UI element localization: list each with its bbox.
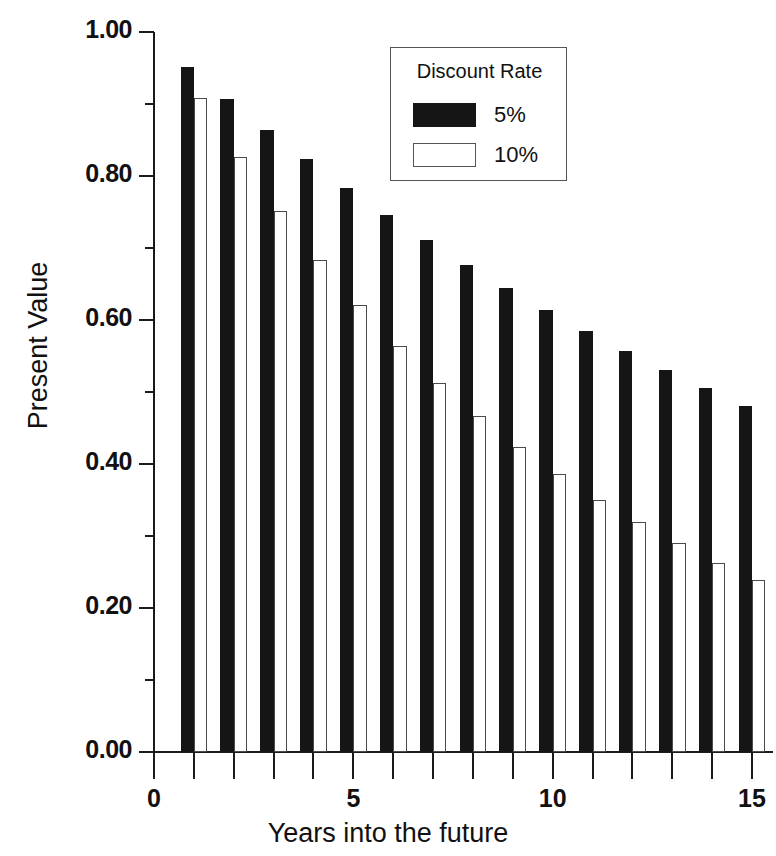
bar-5pct-year-10 (539, 310, 552, 752)
y-tick-major (139, 751, 154, 753)
x-tick-minor (392, 753, 394, 779)
y-tick-minor (145, 247, 154, 249)
y-tick-label: 0.60 (54, 303, 132, 332)
bar-10pct-year-11 (593, 500, 606, 752)
y-tick-label: 1.00 (54, 15, 132, 44)
y-tick-major (139, 31, 154, 33)
bar-10pct-year-7 (433, 383, 446, 752)
legend-item-10-percent: 10% (413, 140, 553, 170)
bar-5pct-year-11 (579, 331, 592, 752)
bar-5pct-year-3 (260, 130, 273, 752)
bar-5pct-year-9 (499, 288, 512, 752)
y-tick-minor (145, 103, 154, 105)
x-tick-label: 15 (717, 784, 776, 813)
legend-swatch-10-percent (413, 143, 476, 167)
bar-5pct-year-5 (340, 188, 353, 752)
x-tick-minor (512, 753, 514, 779)
x-tick-major (552, 753, 554, 779)
bar-5pct-year-14 (699, 388, 712, 752)
y-tick-major (139, 463, 154, 465)
bar-5pct-year-1 (181, 67, 194, 752)
x-tick-minor (472, 753, 474, 779)
y-tick-major (139, 175, 154, 177)
bar-10pct-year-15 (752, 580, 765, 752)
bar-10pct-year-6 (393, 346, 406, 752)
x-tick-label: 10 (518, 784, 588, 813)
x-tick-minor (432, 753, 434, 779)
bar-10pct-year-9 (513, 447, 526, 752)
bar-10pct-year-5 (353, 305, 366, 752)
x-tick-minor (592, 753, 594, 779)
y-tick-minor (145, 679, 154, 681)
x-tick-major (751, 753, 753, 779)
x-tick-minor (711, 753, 713, 779)
y-tick-label: 0.20 (54, 591, 132, 620)
legend: Discount Rate 5% 10% (390, 47, 567, 181)
bar-5pct-year-12 (619, 351, 632, 752)
legend-title: Discount Rate (391, 60, 568, 83)
bar-5pct-year-13 (659, 370, 672, 752)
x-tick-minor (312, 753, 314, 779)
y-tick-minor (145, 391, 154, 393)
bar-10pct-year-13 (672, 543, 685, 752)
bar-10pct-year-2 (234, 157, 247, 752)
present-value-bar-chart: Present Value 0.000.200.400.600.801.00 0… (0, 0, 776, 856)
y-tick-label: 0.00 (54, 735, 132, 764)
legend-item-5-percent: 5% (413, 100, 553, 130)
x-tick-label: 5 (318, 784, 388, 813)
bar-10pct-year-10 (553, 474, 566, 752)
y-tick-major (139, 319, 154, 321)
bar-5pct-year-4 (300, 159, 313, 752)
bar-10pct-year-4 (313, 260, 326, 752)
bar-5pct-year-15 (739, 406, 752, 752)
x-tick-minor (233, 753, 235, 779)
bar-10pct-year-8 (473, 416, 486, 752)
y-tick-label: 0.80 (54, 159, 132, 188)
bar-10pct-year-14 (712, 563, 725, 752)
x-tick-major (352, 753, 354, 779)
x-tick-label: 0 (119, 784, 189, 813)
y-axis-title: Present Value (23, 196, 54, 496)
legend-swatch-5-percent (413, 103, 476, 127)
y-tick-minor (145, 535, 154, 537)
bar-5pct-year-6 (380, 215, 393, 752)
y-tick-label: 0.40 (54, 447, 132, 476)
x-axis-title: Years into the future (0, 818, 776, 849)
x-tick-major (153, 753, 155, 779)
x-tick-minor (631, 753, 633, 779)
bar-5pct-year-8 (460, 265, 473, 752)
x-tick-minor (273, 753, 275, 779)
x-tick-minor (671, 753, 673, 779)
y-tick-major (139, 607, 154, 609)
bar-10pct-year-1 (194, 98, 207, 752)
bar-5pct-year-2 (220, 99, 233, 752)
bar-10pct-year-3 (274, 211, 287, 752)
bar-5pct-year-7 (420, 240, 433, 752)
legend-label-10-percent: 10% (494, 142, 538, 168)
x-tick-minor (193, 753, 195, 779)
bar-10pct-year-12 (632, 522, 645, 752)
legend-label-5-percent: 5% (494, 102, 526, 128)
